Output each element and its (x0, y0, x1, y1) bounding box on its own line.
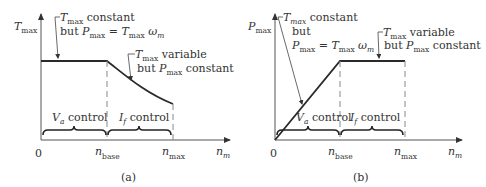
panel-a: Tmax Va control If control 0 nbase nmax … (14, 11, 234, 184)
caption-b: (b) (353, 171, 369, 184)
if-control-brace (108, 126, 171, 135)
origin-label: 0 (35, 147, 42, 160)
va-control-label: Va control (52, 111, 108, 126)
figure-canvas: Tmax Va control If control 0 nbase nmax … (0, 0, 486, 187)
annotation-2-line2: but Pmax constant (384, 39, 481, 54)
annotation-2-line2: but Pmax constant (137, 62, 234, 77)
annotation-1-line1: Tmax constant (60, 11, 135, 26)
x-axis-label: nm (216, 145, 230, 160)
annotation-1-line3: Pmax = Tmax ωm (291, 39, 374, 54)
annotation-1-line1: Tmax constant (283, 11, 358, 26)
if-control-brace (341, 126, 403, 135)
y-axis-label: Pmax (247, 20, 272, 35)
caption-a: (a) (121, 171, 136, 184)
panel-b: Pmax Va control If control 0 nbase nmax … (247, 11, 481, 184)
annotation-2-line1: Tmax variable (135, 48, 207, 63)
va-control-label: Va control (296, 111, 352, 126)
x-axis-label: nm (448, 145, 462, 160)
annotation-1-line2: but Pmax = Tmax ωm (60, 25, 164, 40)
y-axis-label: Tmax (14, 20, 38, 35)
if-control-label: If control (118, 111, 170, 126)
if-control-label: If control (349, 111, 401, 126)
origin-label: 0 (270, 147, 277, 160)
n-max-label: nmax (162, 145, 186, 161)
n-base-label: nbase (328, 145, 353, 161)
n-max-label: nmax (394, 145, 418, 161)
annotation-1-line2: but (292, 25, 311, 38)
annotation-2-pointer (128, 54, 135, 80)
va-control-brace (43, 126, 106, 135)
n-base-label: nbase (95, 145, 120, 161)
